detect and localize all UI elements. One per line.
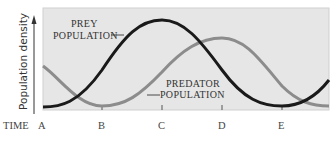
predator-label-line1: PREDATOR: [166, 78, 220, 89]
tick-label-d: D: [218, 120, 226, 131]
predator-prey-chart: Population density PREY POPULATION PREDA…: [0, 0, 336, 141]
predator-label-line2: POPULATION: [160, 89, 225, 100]
tick-label-c: C: [158, 120, 165, 131]
x-axis-label: TIME: [3, 120, 29, 131]
tick-label-b: B: [98, 120, 105, 131]
tick-label-e: E: [278, 120, 284, 131]
arrow-head-icon: [32, 15, 37, 24]
tick-label-a: A: [38, 120, 46, 131]
prey-label-line2: POPULATION: [53, 30, 118, 41]
y-axis-label: Population density: [17, 13, 29, 110]
prey-label-line1: PREY: [71, 18, 98, 29]
